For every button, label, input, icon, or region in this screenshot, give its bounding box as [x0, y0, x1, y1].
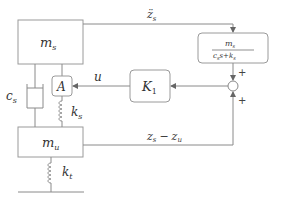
- spring-ks-label: ks: [71, 105, 82, 121]
- actuator-block: A: [52, 64, 72, 96]
- sum-plus-top: +: [238, 67, 246, 78]
- deflection-label: zs−zu: [146, 130, 182, 144]
- controller-block: K1: [130, 70, 170, 102]
- damper-cs: cs: [6, 64, 43, 127]
- transfer-function-block: ms css+ks: [198, 33, 268, 63]
- sprung-mass-block: ms: [18, 20, 83, 64]
- accel-label: z̈s: [146, 8, 157, 23]
- actuator-label: A: [56, 80, 66, 94]
- control-label: u: [94, 70, 102, 84]
- summing-junction: [228, 81, 238, 91]
- tf-denominator: css+ks: [213, 52, 236, 61]
- tire-spring-kt: kt: [48, 157, 73, 192]
- accel-signal: z̈s: [83, 8, 233, 32]
- sum-plus-bottom: +: [238, 95, 246, 106]
- unsprung-mass-block: mu: [18, 127, 83, 157]
- suspension-spring-ks: ks: [59, 96, 82, 127]
- damper-label: cs: [6, 89, 17, 105]
- spring-kt-label: kt: [62, 165, 73, 181]
- diagram-canvas: ms mu cs A ks kt z̈s ms: [0, 0, 281, 205]
